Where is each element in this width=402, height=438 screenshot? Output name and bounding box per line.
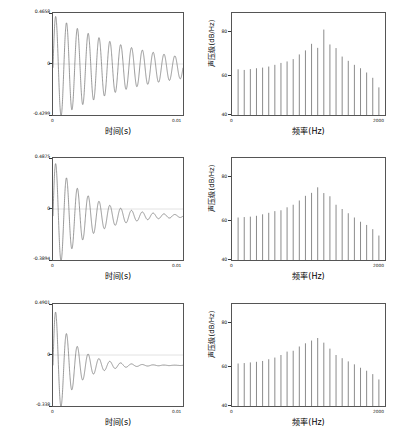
- chart-panel-time-row3: 0.4901 0 -0.338 0 0.01 时间(s): [0, 291, 201, 438]
- y-tick-label-60: 60: [209, 364, 227, 369]
- x-axis-title: 时间(s): [52, 270, 184, 281]
- spectrum-plot-frame-row1: [231, 12, 386, 116]
- x-axis-min-label: 0: [230, 118, 233, 123]
- y-axis-zero-label: 0: [4, 352, 50, 357]
- y-tick-label-80: 80: [209, 29, 227, 34]
- y-axis-max-label: 0.4875: [4, 154, 50, 159]
- chart-panel-time-row1: 0.4658 0 -0.4299 0 0.01 时间(s): [0, 0, 201, 145]
- waveform-trace: [53, 312, 183, 406]
- y-axis-zero-label: 0: [4, 206, 50, 211]
- spectrum-plot-frame-row3: [231, 303, 386, 407]
- time-waveform-svg-row2: [53, 158, 183, 260]
- spectrum-lines-svg-row1: [232, 13, 385, 115]
- x-axis-min-label: 0: [230, 409, 233, 414]
- x-axis-max-label: 0.01: [172, 118, 181, 123]
- x-axis-min-label: 0: [51, 118, 54, 123]
- chart-panel-spectrum-row1: 声压级(dB/Hz) 80 60 40 0 2000 频率(Hz): [201, 0, 402, 145]
- y-tick-label-40: 40: [209, 112, 227, 117]
- spectrum-lines-svg-row2: [232, 158, 385, 260]
- chart-panel-spectrum-row2: 声压级(dB/Hz) 80 60 40 0 2000 频率(Hz): [201, 145, 402, 291]
- y-tick-label-80: 80: [209, 174, 227, 179]
- y-axis-title: 声压级(dB/Hz): [206, 298, 216, 370]
- chart-panel-spectrum-row3: 声压级(dB/Hz) 80 60 40 0 2000 频率(Hz): [201, 291, 402, 438]
- x-axis-max-label: 2000: [373, 263, 384, 268]
- time-plot-frame-row3: [52, 303, 184, 407]
- waveform-trace: [53, 164, 183, 260]
- x-axis-max-label: 0.01: [172, 263, 181, 268]
- time-plot-frame-row1: [52, 12, 184, 116]
- spectrum-lines-svg-row3: [232, 304, 385, 406]
- y-axis-zero-label: 0: [4, 61, 50, 66]
- y-axis-title: 声压级(dB/Hz): [206, 7, 216, 79]
- y-tick-label-80: 80: [209, 320, 227, 325]
- y-axis-title: 声压级(dB/Hz): [206, 152, 216, 224]
- spectrum-plot-frame-row2: [231, 157, 386, 261]
- y-axis-min-label: -0.338: [4, 402, 50, 407]
- spectral-line-group: [238, 30, 379, 115]
- y-tick-label-40: 40: [209, 257, 227, 262]
- y-axis-max-label: 0.4901: [4, 300, 50, 305]
- y-tick-label-60: 60: [209, 73, 227, 78]
- x-axis-title: 时间(s): [52, 125, 184, 136]
- y-axis-min-label: -0.3894: [4, 256, 50, 261]
- time-waveform-svg-row1: [53, 13, 183, 115]
- x-axis-max-label: 2000: [373, 409, 384, 414]
- x-axis-min-label: 0: [51, 409, 54, 414]
- chart-panel-time-row2: 0.4875 0 -0.3894 0 0.01 时间(s): [0, 145, 201, 291]
- x-axis-min-label: 0: [230, 263, 233, 268]
- x-axis-title: 时间(s): [52, 416, 184, 427]
- y-axis-max-label: 0.4658: [4, 9, 50, 14]
- x-axis-max-label: 2000: [373, 118, 384, 123]
- figure-grid: 0.4658 0 -0.4299 0 0.01 时间(s) 声压级(dB/Hz)…: [0, 0, 402, 438]
- spectral-line-group: [238, 187, 379, 260]
- time-plot-frame-row2: [52, 157, 184, 261]
- waveform-trace: [53, 16, 183, 115]
- y-axis-min-label: -0.4299: [4, 111, 50, 116]
- y-tick-label-40: 40: [209, 403, 227, 408]
- x-axis-title: 频率(Hz): [231, 416, 386, 427]
- time-waveform-svg-row3: [53, 304, 183, 406]
- y-tick-label-60: 60: [209, 218, 227, 223]
- x-axis-title: 频率(Hz): [231, 125, 386, 136]
- x-axis-max-label: 0.01: [172, 409, 181, 414]
- x-axis-min-label: 0: [51, 263, 54, 268]
- x-axis-title: 频率(Hz): [231, 270, 386, 281]
- spectral-line-group: [238, 338, 379, 406]
